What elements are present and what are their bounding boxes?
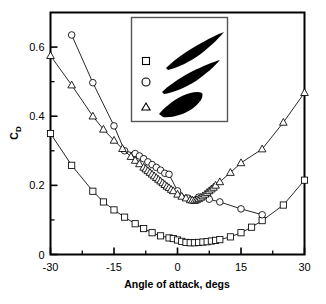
data-point-circle [111,123,118,130]
y-tick-label: 0.2 [29,179,44,191]
x-tick-label: -15 [106,261,122,273]
data-point-circle [90,79,97,86]
y-tick-label: 0.4 [29,110,44,122]
y-axis-label-subscript: D [14,126,23,132]
data-point-square [132,221,138,227]
y-tick-label: 0.6 [29,41,44,53]
data-point-square [121,214,127,220]
data-point-square [100,199,106,205]
data-point-square [141,225,147,231]
data-point-square [157,233,163,239]
data-point-square [90,188,96,194]
data-point-square [301,177,307,183]
data-point-square [69,162,75,168]
data-point-square [149,230,155,236]
x-tick-label: 0 [174,261,180,273]
x-tick-label: 30 [298,261,310,273]
x-tick-label: -30 [43,261,59,273]
legend-inset [132,18,228,122]
data-point-square [111,207,117,213]
data-point-square [47,130,53,136]
data-point-square [238,230,244,236]
data-point-circle [68,32,75,39]
data-point-square [227,234,233,240]
data-point-circle [217,199,224,206]
data-point-circle [259,211,266,218]
data-point-circle [238,206,245,213]
data-point-circle [166,171,173,178]
data-point-square [280,202,286,208]
x-axis-label: Angle of attack, degs [124,278,230,290]
drag-coefficient-chart: -30-150153000.20.40.6 Angle of attack, d… [0,0,326,304]
data-point-square [217,237,223,243]
y-tick-label: 0 [38,249,44,261]
x-tick-label: 15 [235,261,247,273]
data-point-square [248,224,254,230]
